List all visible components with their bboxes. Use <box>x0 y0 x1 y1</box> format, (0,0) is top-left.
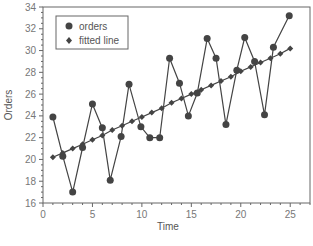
y-tick-label: 32 <box>25 23 37 34</box>
y-tick-label: 16 <box>25 198 37 209</box>
fitted-line-point <box>99 132 105 138</box>
orders-point <box>185 112 192 119</box>
x-tick-label: 0 <box>40 209 46 220</box>
fitted-line-point <box>277 51 283 57</box>
orders-point <box>99 124 106 131</box>
y-tick-label: 34 <box>25 2 37 13</box>
fitted-line-point <box>50 154 56 160</box>
legend-fitted-label: fitted line <box>79 35 119 46</box>
x-tick-label: 25 <box>285 209 297 220</box>
x-tick-label: 20 <box>235 209 247 220</box>
orders-point <box>156 134 163 141</box>
fitted-line-point <box>258 60 264 66</box>
orders-point <box>204 35 211 42</box>
orders-point <box>118 133 125 140</box>
orders-point <box>213 55 220 62</box>
fitted-line-point <box>287 45 293 51</box>
y-axis-title: Orders <box>3 90 14 121</box>
orders-point <box>270 44 277 51</box>
y-tick-label: 22 <box>25 132 37 143</box>
y-tick-label: 18 <box>25 176 37 187</box>
fitted-line-point <box>70 146 76 152</box>
orders-point <box>241 34 248 41</box>
x-axis-title: Time <box>157 221 179 232</box>
orders-point <box>49 113 56 120</box>
orders-point <box>166 55 173 62</box>
orders-point <box>107 177 114 184</box>
orders-point <box>222 121 229 128</box>
fitted-line-point <box>119 123 125 129</box>
fitted-line-point <box>139 114 145 120</box>
legend: orders fitted line <box>56 16 128 49</box>
fitted-line-point <box>109 127 115 133</box>
x-tick-label: 10 <box>136 209 148 220</box>
fitted-line-point <box>248 64 254 70</box>
fitted-line-point <box>89 137 95 143</box>
orders-chart: 051015202516182022242628303234 orders fi… <box>0 0 313 246</box>
fitted-line-point <box>208 82 214 88</box>
y-tick-label: 30 <box>25 45 37 56</box>
orders-point <box>89 100 96 107</box>
orders-point <box>126 81 133 88</box>
y-tick-label: 28 <box>25 67 37 78</box>
orders-point <box>261 111 268 118</box>
fitted-line-point <box>149 110 155 116</box>
orders-point <box>286 12 293 19</box>
fitted-line-point <box>228 74 234 80</box>
x-tick-label: 5 <box>90 209 96 220</box>
y-tick-label: 20 <box>25 154 37 165</box>
legend-orders-marker <box>66 23 73 30</box>
fitted-line-point <box>188 91 194 97</box>
orders-point <box>146 134 153 141</box>
fitted-line-point <box>129 118 135 124</box>
fitted-line-point <box>169 100 175 106</box>
y-tick-label: 26 <box>25 89 37 100</box>
orders-point <box>137 123 144 130</box>
x-tick-label: 15 <box>186 209 198 220</box>
legend-orders-label: orders <box>79 21 107 32</box>
y-tick-label: 24 <box>25 110 37 121</box>
orders-point <box>176 80 183 87</box>
orders-point <box>69 189 76 196</box>
